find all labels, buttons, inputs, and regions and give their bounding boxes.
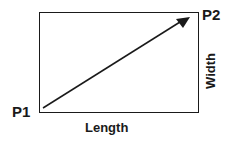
point-p1-label: P1 xyxy=(12,103,30,120)
point-p2-label: P2 xyxy=(202,6,220,23)
width-label: Width xyxy=(203,53,218,89)
length-label: Length xyxy=(85,120,128,135)
